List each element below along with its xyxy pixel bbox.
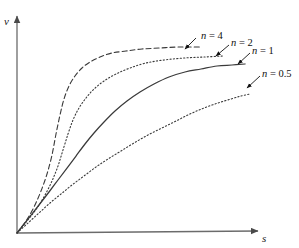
curve-n-0-5 xyxy=(17,94,250,233)
annotation-leader-arrow-icon xyxy=(238,53,250,64)
annotation-leader-arrow-icon xyxy=(216,45,229,56)
figure-container: v s n = 4n = 2n = 1n = 0.5 xyxy=(0,0,299,248)
x-axis-line xyxy=(17,231,258,233)
series-group xyxy=(17,47,250,233)
x-axis-label: s xyxy=(262,233,266,244)
curve-n-1 xyxy=(17,64,245,233)
series-label-4: n = 4 xyxy=(201,31,223,42)
curve-n-4 xyxy=(17,47,200,233)
annotation-leader-arrow-icon xyxy=(247,76,260,88)
curve-n-2 xyxy=(17,56,223,233)
series-label-1: n = 1 xyxy=(252,46,274,57)
y-axis-label: v xyxy=(4,16,9,27)
series-label-2: n = 2 xyxy=(231,38,253,49)
chart-canvas xyxy=(0,0,299,248)
series-label-0-5: n = 0.5 xyxy=(262,69,292,80)
